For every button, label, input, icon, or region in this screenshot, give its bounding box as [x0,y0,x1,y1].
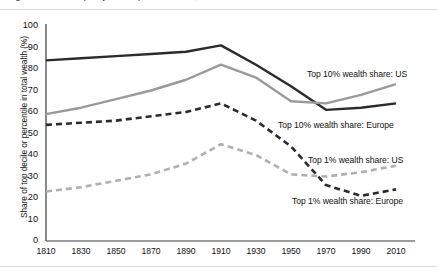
figure-bottom-rule [0,266,437,267]
series-line-3 [46,144,396,191]
annotation-1: Top 10% wealth share: Europe [278,120,394,130]
figure-container: Figure: Wealth inequality in Europe and … [0,0,437,275]
line-chart-plot [0,0,437,275]
annotation-2: Top 1% wealth share: US [308,155,403,165]
annotation-3: Top 1% wealth share: Europe [292,196,403,206]
annotation-0: Top 10% wealth share: US [307,69,407,79]
series-line-2 [46,103,396,195]
